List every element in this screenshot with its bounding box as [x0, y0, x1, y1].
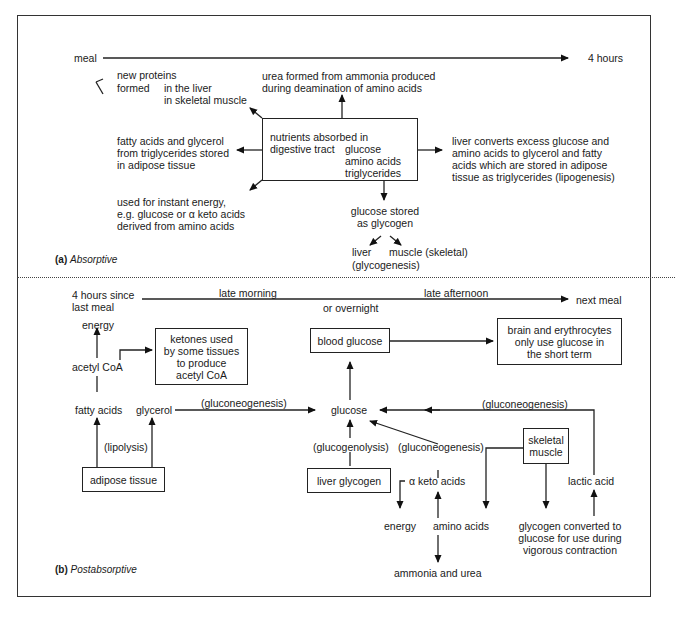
glycogenesis-label: (glycogenesis): [352, 259, 420, 271]
nutrients-line1: nutrients absorbed in: [270, 131, 368, 143]
timeline-start-4-hours: 4 hours since last meal: [72, 289, 134, 313]
urea-formed-text: urea formed from ammonia produced during…: [262, 70, 435, 94]
nutrients-line2: digestive tract: [270, 143, 335, 155]
energy-bottom-label: energy: [384, 520, 416, 532]
panel-a-name: Absorptive: [70, 254, 117, 265]
new-proteins-liver: in the liver: [164, 82, 212, 94]
ketones-box: ketones used by some tissues to produce …: [155, 328, 248, 385]
skeletal-muscle-box: skeletal muscle: [523, 428, 569, 464]
panel-b-name: Postabsorptive: [71, 564, 137, 575]
glycerol-label: glycerol: [136, 404, 172, 416]
nutrient-triglycerides: triglycerides: [345, 167, 401, 179]
timeline-end-4-hours: 4 hours: [588, 52, 623, 64]
panel-divider: [17, 277, 675, 278]
lipolysis-label: (lipolysis): [104, 441, 148, 453]
muscle-skeletal-label: muscle (skeletal): [389, 246, 468, 258]
panel-b-caption: (b) Postabsorptive: [55, 564, 137, 576]
amino-acids-label: amino acids: [433, 520, 489, 532]
panel-b-letter: (b): [55, 564, 68, 575]
new-proteins-skeletal-muscle: in skeletal muscle: [164, 94, 247, 106]
panel-a-letter: (a): [55, 254, 67, 265]
glucogenolysis-label: (glucogenolysis): [313, 441, 389, 453]
liver-label: liver: [352, 246, 371, 258]
energy-top-label: energy: [82, 319, 114, 331]
adipose-tissue-box: adipose tissue: [82, 467, 165, 492]
liver-glycogen-box: liver glycogen: [307, 468, 391, 493]
new-proteins-formed: formed: [117, 82, 150, 94]
timeline-or-overnight: or overnight: [323, 302, 378, 314]
gluconeogenesis-left-label: (gluconeogenesis): [201, 397, 287, 409]
glycogen-converted-text: glycogen converted to glucose for use du…: [515, 520, 625, 556]
acetyl-coa-label: acetyl CoA: [72, 361, 123, 373]
timeline-late-afternoon: late afternoon: [424, 287, 488, 299]
fatty-acids-glycerol-text: fatty acids and glycerol from triglyceri…: [117, 135, 229, 171]
glucose-label: glucose: [331, 404, 367, 416]
nutrient-glucose: glucose: [345, 143, 381, 155]
nutrient-amino-acids: amino acids: [345, 155, 401, 167]
instant-energy-text: used for instant energy, e.g. glucose or…: [117, 196, 245, 232]
timeline-late-morning: late morning: [219, 287, 277, 299]
new-proteins-label: new proteins: [117, 69, 177, 81]
timeline-start-meal: meal: [74, 52, 97, 64]
blood-glucose-box: blood glucose: [310, 328, 390, 353]
ammonia-urea-label: ammonia and urea: [394, 567, 482, 579]
alpha-keto-acids-label: α keto acids: [409, 475, 465, 487]
glucose-stored-text: glucose stored as glycogen: [343, 205, 427, 229]
gluconeogenesis-right-label: (gluconeogenesis): [482, 398, 568, 410]
panel-a-caption: (a) Absorptive: [55, 254, 117, 266]
nutrients-absorbed-box: nutrients absorbed in digestive tract gl…: [262, 118, 418, 181]
fatty-acids-label: fatty acids: [75, 404, 122, 416]
gluconeogenesis-mid-label: (gluconeogenesis): [398, 441, 484, 453]
timeline-next-meal: next meal: [576, 294, 622, 306]
lactic-acid-label: lactic acid: [568, 475, 614, 487]
liver-converts-text: liver converts excess glucose and amino …: [452, 135, 615, 183]
brain-erythrocytes-box: brain and erythrocytes only use glucose …: [497, 318, 622, 365]
